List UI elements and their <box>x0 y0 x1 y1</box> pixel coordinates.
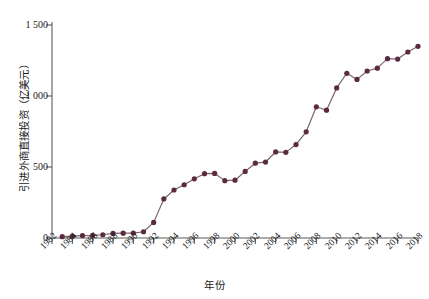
x-tick-label: 2012 <box>343 231 364 252</box>
x-tick-label: 2016 <box>384 231 405 252</box>
chart-figure: 引进外商直接投资（亿美元） 1 500 1 000 500 0 19821984… <box>0 0 429 299</box>
x-tick-label: 2010 <box>323 231 344 252</box>
x-tick-label: 2006 <box>282 231 303 252</box>
x-tick-label: 2004 <box>262 231 283 252</box>
x-tick-label: 1998 <box>201 231 222 252</box>
x-axis-tick-labels: 1982198419861988199019921994199619982000… <box>0 0 429 299</box>
x-tick-label: 1988 <box>99 231 120 252</box>
x-tick-label: 2002 <box>241 231 262 252</box>
x-tick-label: 1982 <box>38 231 59 252</box>
x-tick-label: 2008 <box>302 231 323 252</box>
x-tick-label: 1990 <box>119 231 140 252</box>
x-tick-label: 1992 <box>140 231 161 252</box>
x-tick-label: 2018 <box>404 231 425 252</box>
x-tick-label: 1986 <box>79 231 100 252</box>
x-tick-label: 1994 <box>160 231 181 252</box>
x-tick-label: 2000 <box>221 231 242 252</box>
x-tick-label: 1984 <box>58 231 79 252</box>
x-tick-label: 1996 <box>180 231 201 252</box>
x-tick-label: 2014 <box>363 231 384 252</box>
x-axis-title: 年份 <box>0 277 429 292</box>
